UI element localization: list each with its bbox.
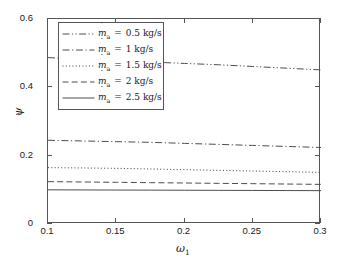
y-tick-label-0: 0	[28, 217, 33, 228]
y-tick-label-1: 0.2	[20, 149, 33, 160]
x-tick-label-1: 0.15	[106, 225, 125, 236]
x-tick-label-4: 0.3	[313, 225, 326, 236]
legend-line-sample-0	[62, 29, 95, 39]
series-line-1	[48, 140, 321, 147]
legend-line-sample-1	[62, 45, 95, 55]
x-tick-3	[252, 218, 253, 223]
y-tick-0	[47, 223, 52, 224]
y-tick-right-2	[315, 86, 320, 87]
x-tick-1	[115, 218, 116, 223]
legend-line-sample-3	[62, 77, 95, 87]
x-tick-top-3	[252, 18, 253, 23]
x-axis-title-subscript: 1	[185, 248, 190, 257]
legend: ma = 0.5 kg/sma = 1 kg/sma = 1.5 kg/sma …	[58, 22, 164, 110]
x-tick-top-0	[47, 18, 48, 23]
x-tick-label-0: 0.1	[40, 225, 53, 236]
x-tick-4	[320, 218, 321, 223]
chart-figure: ψ 0 0.2 0.4 0.6 0.1 0.15 0.2 0.25 0.3 ω1…	[0, 0, 346, 273]
legend-label-2: ma = 1.5 kg/s	[95, 60, 162, 73]
series-line-3	[48, 182, 321, 185]
y-tick-right-1	[315, 155, 320, 156]
y-tick-label-3: 0.6	[20, 12, 33, 23]
y-tick-2	[47, 86, 52, 87]
y-tick-right-0	[315, 223, 320, 224]
legend-item-0: ma = 0.5 kg/s	[62, 26, 159, 42]
x-tick-0	[47, 218, 48, 223]
x-tick-top-2	[184, 18, 185, 23]
x-axis-title: ω1	[176, 242, 190, 257]
x-tick-label-2: 0.2	[177, 225, 190, 236]
x-tick-2	[184, 218, 185, 223]
series-line-2	[48, 168, 321, 173]
y-tick-label-2: 0.4	[20, 80, 33, 91]
legend-item-1: ma = 1 kg/s	[62, 42, 159, 58]
legend-label-4: ma = 2.5 kg/s	[95, 92, 162, 105]
legend-label-0: ma = 0.5 kg/s	[95, 28, 162, 41]
y-axis-title: ψ	[12, 108, 25, 117]
x-axis-title-symbol: ω	[176, 242, 185, 255]
series-line-4	[48, 190, 321, 191]
legend-item-2: ma = 1.5 kg/s	[62, 58, 159, 74]
y-tick-1	[47, 155, 52, 156]
legend-item-3: ma = 2 kg/s	[62, 74, 159, 90]
x-tick-top-4	[320, 18, 321, 23]
legend-line-sample-4	[62, 93, 95, 103]
legend-line-sample-2	[62, 61, 95, 71]
legend-item-4: ma = 2.5 kg/s	[62, 90, 159, 106]
x-tick-label-3: 0.25	[243, 225, 262, 236]
